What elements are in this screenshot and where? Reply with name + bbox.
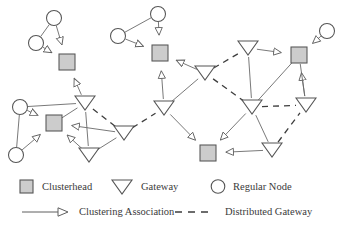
regular-node — [13, 100, 28, 115]
clustering-association-edge — [41, 24, 50, 36]
legend-item-distributed-gateway: Distributed Gateway — [175, 206, 313, 217]
gateway-node — [238, 41, 258, 55]
legend-item-regular-node: Regular Node — [211, 180, 292, 194]
legend-label-clustering-association: Clustering Association — [79, 206, 175, 217]
clustering-association-edge — [43, 47, 52, 52]
regular-node — [320, 24, 335, 39]
legend-label-distributed-gateway: Distributed Gateway — [225, 206, 313, 217]
legend-label-gateway: Gateway — [141, 181, 179, 192]
clustering-association-edge — [257, 49, 281, 52]
legend: Clusterhead Gateway Regular Node Cluster… — [0, 175, 341, 240]
clustering-association-edge — [22, 135, 40, 150]
legend-label-clusterhead: Clusterhead — [42, 181, 93, 192]
triangle-down-icon — [112, 180, 132, 194]
clustering-association-edge — [125, 18, 151, 32]
clustering-association-edge — [220, 114, 245, 140]
clustering-association-edge — [158, 22, 159, 35]
legend-label-regular-node: Regular Node — [233, 181, 292, 192]
clustering-association-edge — [17, 115, 20, 147]
gateway-node — [75, 96, 95, 110]
regular-node — [9, 148, 24, 163]
clustering-association-edge — [27, 110, 37, 115]
clustering-association-edge — [74, 78, 81, 94]
clustering-association-edge — [300, 64, 305, 96]
clusterhead-node — [200, 145, 216, 161]
legend-item-gateway: Gateway — [112, 180, 179, 194]
clusterhead-node — [59, 54, 75, 70]
gateway-node — [114, 126, 134, 140]
distributed-gateway-edge — [214, 53, 240, 68]
regular-node — [151, 7, 166, 22]
distributed-gateway-edge — [213, 79, 244, 101]
clustering-association-edge — [56, 26, 62, 45]
clustering-association-edge — [249, 57, 252, 98]
clustering-association-edge — [171, 79, 198, 102]
gateway-node — [262, 143, 282, 157]
gateway-node — [296, 98, 316, 112]
circle-icon — [211, 180, 225, 194]
arrowhead-icon — [58, 208, 68, 216]
clustering-association-edge — [97, 138, 117, 150]
solid-edge-group — [17, 18, 321, 152]
distributed-gateway-edge — [278, 113, 300, 142]
regular-node — [47, 11, 62, 26]
distributed-gateway-edge — [262, 105, 296, 106]
distributed-gateway-edge — [132, 113, 155, 127]
clustering-association-edge — [258, 62, 293, 101]
clustering-association-edge — [67, 135, 82, 149]
gateway-node — [242, 100, 262, 114]
clustering-association-edge — [176, 60, 196, 69]
clusterhead-node — [291, 47, 307, 63]
legend-item-clustering-association: Clustering Association — [22, 206, 175, 217]
clustering-association-edge — [86, 112, 89, 146]
regular-node — [29, 36, 44, 51]
gateway-node — [79, 148, 99, 162]
clustering-association-edge — [170, 114, 195, 140]
clustering-association-edge — [62, 108, 78, 118]
clusterhead-node — [46, 115, 62, 131]
clustering-association-edge — [313, 36, 321, 43]
distributed-gateway-edge — [93, 109, 116, 127]
clustering-association-edge — [226, 150, 263, 152]
network-topology-figure: Clusterhead Gateway Regular Node Cluster… — [0, 0, 341, 240]
clustering-association-edge — [72, 126, 115, 132]
clustering-association-edge — [161, 71, 163, 99]
legend-item-clusterhead: Clusterhead — [20, 180, 93, 193]
gateway-node — [154, 101, 174, 115]
clusterhead-node — [152, 45, 168, 61]
clustering-association-edge — [28, 104, 76, 107]
gateway-node — [195, 66, 215, 80]
clustering-association-edge — [125, 39, 143, 46]
regular-node — [111, 29, 126, 44]
square-icon — [20, 180, 33, 193]
clustering-association-edge — [256, 115, 268, 142]
topology-graph — [0, 0, 341, 175]
